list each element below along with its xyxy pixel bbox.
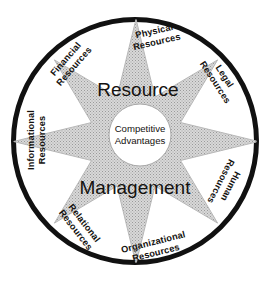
title-resource: Resource — [97, 79, 178, 100]
resource-management-diagram: Resource Management Competitive Advantag… — [0, 0, 273, 285]
center-label-line1: Competitive — [115, 123, 166, 134]
center-label-line2: Advantages — [115, 135, 166, 146]
title-management: Management — [80, 177, 192, 198]
label-informational-resources-line2: Resources — [37, 116, 47, 164]
label-informational-resources: Informational Resources — [26, 110, 47, 170]
label-informational-resources-line1: Informational — [26, 110, 36, 170]
diagram-canvas: Resource Management Competitive Advantag… — [0, 0, 273, 285]
